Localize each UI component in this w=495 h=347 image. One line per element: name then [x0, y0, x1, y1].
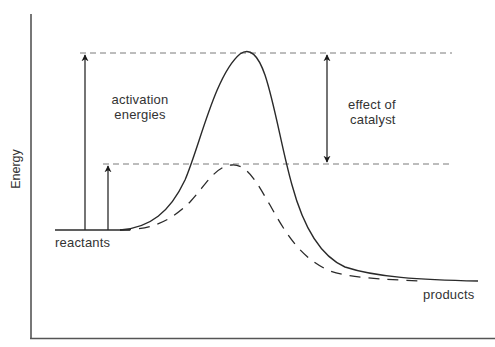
- catalyst-label-line2: catalyst: [348, 112, 428, 127]
- products-label: products: [423, 287, 474, 302]
- activation-energies-label: activation energies: [100, 92, 180, 122]
- y-axis-label: Energy: [9, 145, 23, 193]
- activation-label-line2: energies: [100, 107, 180, 122]
- uncatalyzed-curve: [120, 52, 478, 281]
- energy-diagram: [0, 0, 495, 347]
- activation-label-line1: activation: [100, 92, 180, 107]
- catalyzed-curve: [120, 165, 420, 281]
- effect-of-catalyst-label: effect of catalyst: [348, 97, 428, 127]
- reactants-label: reactants: [55, 235, 110, 250]
- catalyst-label-line1: effect of: [348, 97, 428, 112]
